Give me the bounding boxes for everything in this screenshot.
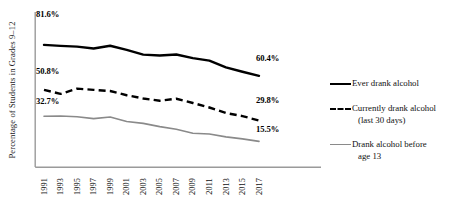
x-axis-tick-1993: 1993 xyxy=(55,171,67,209)
legend-label-line1: Drank alcohol before xyxy=(352,139,427,149)
x-axis-tick-1997: 1997 xyxy=(88,171,100,209)
x-axis-tick-2009: 2009 xyxy=(187,171,199,209)
x-axis-tick-2003: 2003 xyxy=(137,171,149,209)
data-label-ever-end: 60.4% xyxy=(256,53,279,63)
legend-label-drank-before-age-13: Drank alcohol beforeage 13 xyxy=(352,139,427,162)
data-label-current-start: 50.8% xyxy=(36,66,59,76)
x-axis-tick-label: 2009 xyxy=(188,178,197,195)
data-label-current-end: 29.8% xyxy=(256,95,279,105)
series-line-ever-drank-alcohol xyxy=(44,45,259,76)
data-label-before13-start: 32.7% xyxy=(36,96,59,106)
chart-legend: Ever drank alcohol Currently drank alcoh… xyxy=(330,78,461,175)
x-axis-tick-label: 1999 xyxy=(106,178,115,195)
x-axis-tick-label: 2013 xyxy=(221,178,230,195)
y-axis-title-text: Percentage of Students in Grades 9–12 xyxy=(7,21,17,158)
x-axis-tick-1991: 1991 xyxy=(38,171,50,209)
legend-item-drank-before-age-13: Drank alcohol beforeage 13 xyxy=(330,139,461,162)
x-axis-tick-labels: 1991199319951997199920012003200520072009… xyxy=(34,171,321,211)
plot-svg xyxy=(34,12,321,169)
x-axis-tick-2011: 2011 xyxy=(203,171,215,209)
x-axis-tick-label: 1995 xyxy=(73,178,82,195)
x-axis-tick-label: 1997 xyxy=(89,178,98,195)
x-axis-tick-label: 1993 xyxy=(56,178,65,195)
x-axis-tick-label: 2007 xyxy=(172,178,181,195)
x-axis-tick-2017: 2017 xyxy=(253,171,265,209)
y-axis-title: Percentage of Students in Grades 9–12 xyxy=(0,0,24,180)
series-line-currently-drank-alcohol xyxy=(44,89,259,121)
alcohol-use-line-chart: Percentage of Students in Grades 9–12 81… xyxy=(0,0,461,212)
x-axis-tick-label: 1991 xyxy=(40,178,49,195)
data-label-before13-end: 15.5% xyxy=(256,124,279,134)
series-line-drank-before-age-13 xyxy=(44,116,259,141)
data-label-ever-start: 81.6% xyxy=(36,9,59,19)
legend-label-currently-drank-alcohol: Currently drank alcohol(last 30 days) xyxy=(352,103,436,126)
legend-label-line1: Currently drank alcohol xyxy=(352,103,436,113)
x-axis-tick-label: 2005 xyxy=(155,178,164,195)
x-axis-tick-label: 2003 xyxy=(139,178,148,195)
x-axis-tick-label: 2001 xyxy=(122,178,131,195)
solid-black-line-icon xyxy=(330,78,351,90)
x-axis-tick-1999: 1999 xyxy=(104,171,116,209)
legend-label-ever-drank-alcohol: Ever drank alcohol xyxy=(352,78,419,90)
legend-item-currently-drank-alcohol: Currently drank alcohol(last 30 days) xyxy=(330,103,461,126)
x-axis-tick-2007: 2007 xyxy=(170,171,182,209)
x-axis-tick-1995: 1995 xyxy=(71,171,83,209)
x-axis-tick-label: 2011 xyxy=(205,178,214,194)
dashed-black-line-icon xyxy=(330,103,351,115)
x-axis-tick-label: 2015 xyxy=(238,178,247,195)
legend-item-ever-drank-alcohol: Ever drank alcohol xyxy=(330,78,461,90)
x-axis-tick-2001: 2001 xyxy=(121,171,133,209)
x-axis-tick-label: 2017 xyxy=(255,178,264,195)
x-axis-tick-2005: 2005 xyxy=(154,171,166,209)
legend-label-line2: (last 30 days) xyxy=(352,115,436,127)
solid-gray-line-icon xyxy=(330,139,351,151)
plot-area: 81.6% 50.8% 32.7% 60.4% 29.8% 15.5% xyxy=(34,12,321,169)
legend-label-line2: age 13 xyxy=(352,151,427,163)
x-axis-tick-2015: 2015 xyxy=(236,171,248,209)
x-axis-tick-2013: 2013 xyxy=(220,171,232,209)
